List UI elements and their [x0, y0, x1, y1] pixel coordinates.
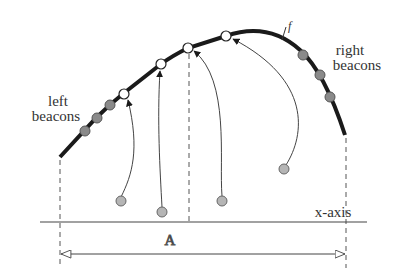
right-beacon	[325, 92, 335, 102]
right-beacons	[298, 50, 335, 102]
trajectory-arrow-1	[121, 100, 134, 197]
x-axis-label: x-axis	[315, 204, 352, 220]
span-label: A	[165, 232, 176, 248]
right-beacon	[298, 50, 308, 60]
hollow-point	[183, 43, 193, 53]
trajectory-arrow-2	[159, 71, 162, 207]
left-beacons-label-line2: beacons	[32, 108, 80, 124]
source-point	[279, 164, 289, 174]
right-beacon	[315, 70, 325, 80]
beacon-curve-diagram: x-axis A f left beacons right beacons	[0, 0, 414, 278]
left-beacons	[80, 100, 115, 136]
source-point	[217, 196, 227, 206]
left-beacon	[105, 100, 115, 110]
right-beacons-label-line2: beacons	[333, 57, 381, 73]
source-point	[157, 207, 167, 217]
left-beacons-label-line1: left	[48, 93, 69, 109]
right-beacons-label-line1: right	[336, 42, 365, 58]
hollow-point	[221, 31, 231, 41]
hollow-point	[156, 59, 166, 69]
left-beacon	[92, 113, 102, 123]
left-beacon	[80, 126, 90, 136]
trajectory-arrow-4	[233, 39, 298, 165]
source-point	[116, 196, 126, 206]
hollow-point	[119, 89, 129, 99]
curve-label: f	[288, 19, 293, 33]
source-points	[116, 164, 289, 217]
trajectory-arrow-3	[194, 51, 222, 196]
